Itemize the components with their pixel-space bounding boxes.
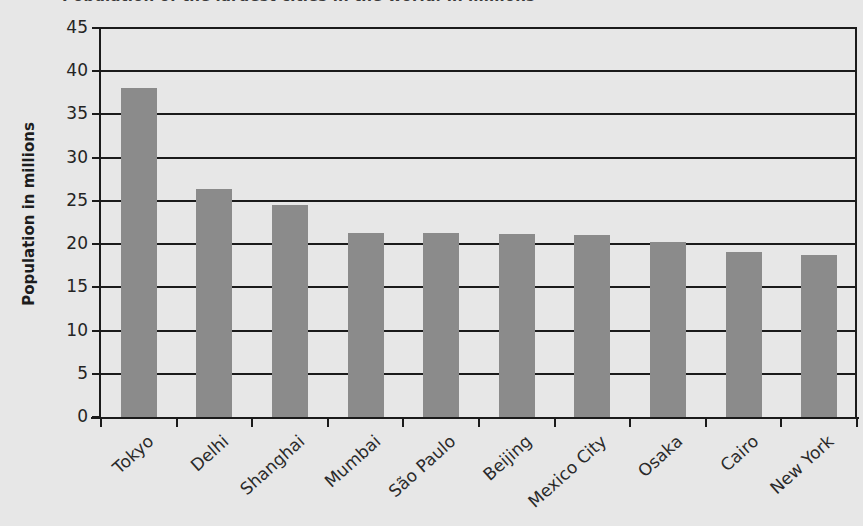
x-axis-tick-labels: TokyoDelhiShanghaiMumbaiSão PauloBeijing… [0, 0, 863, 526]
bar-chart: Population of the largest cities in the … [0, 0, 863, 526]
